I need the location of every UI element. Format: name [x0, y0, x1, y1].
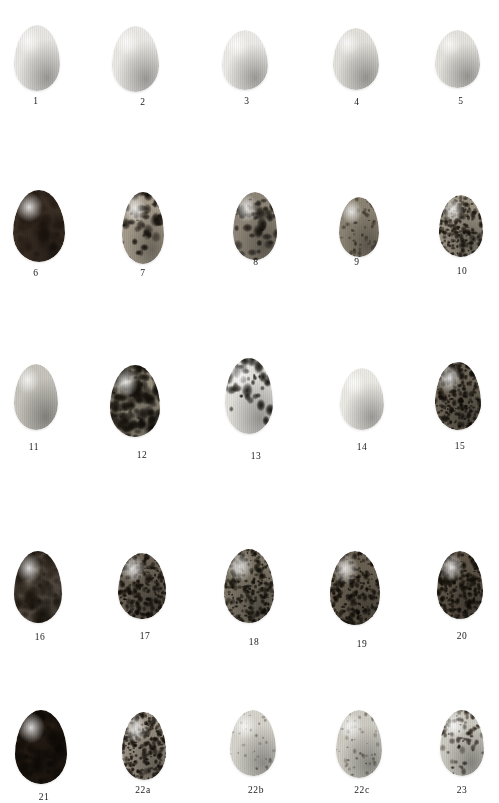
egg-caption: 15 [440, 441, 480, 451]
egg-shading [225, 358, 273, 434]
egg-image-2 [112, 26, 159, 92]
egg-image-22c [336, 710, 382, 778]
egg-caption: 23 [442, 785, 482, 795]
egg-shading [118, 553, 166, 619]
egg-shading [222, 30, 268, 90]
egg-shading [333, 28, 379, 90]
egg-shading [14, 25, 60, 91]
egg-image-13 [225, 358, 273, 434]
egg-image-22b [230, 710, 276, 776]
egg-shading [230, 710, 276, 776]
egg-image-7 [122, 192, 164, 264]
egg-caption: 4 [337, 97, 377, 107]
egg-caption: 12 [122, 450, 162, 460]
egg-image-23 [440, 710, 484, 776]
egg-caption: 22c [342, 785, 382, 795]
egg-caption: 22b [236, 785, 276, 795]
egg-shading [122, 712, 166, 780]
egg-shading [435, 30, 480, 88]
egg-caption: 10 [442, 266, 482, 276]
egg-image-1 [14, 25, 60, 91]
egg-image-21 [15, 710, 67, 784]
egg-caption: 3 [227, 96, 267, 106]
egg-shading [13, 190, 65, 262]
egg-caption: 22a [123, 785, 163, 795]
egg-caption: 9 [337, 257, 377, 267]
egg-caption: 20 [442, 631, 482, 641]
egg-shading [339, 197, 379, 257]
egg-shading [336, 710, 382, 778]
egg-caption: 13 [236, 451, 276, 461]
egg-caption: 11 [14, 442, 54, 452]
egg-image-14 [340, 368, 384, 430]
egg-caption: 17 [125, 631, 165, 641]
egg-image-16 [14, 551, 62, 623]
egg-caption: 19 [342, 639, 382, 649]
egg-image-20 [437, 551, 483, 619]
egg-image-18 [224, 549, 274, 623]
egg-shading [110, 365, 160, 437]
egg-image-19 [330, 551, 380, 625]
egg-caption: 14 [342, 442, 382, 452]
egg-shading [224, 549, 274, 623]
egg-caption: 21 [24, 792, 64, 802]
egg-caption: 8 [236, 257, 276, 267]
egg-shading [435, 362, 481, 430]
egg-shading [14, 551, 62, 623]
egg-caption: 2 [123, 97, 163, 107]
egg-image-5 [435, 30, 480, 88]
egg-image-6 [13, 190, 65, 262]
egg-image-22a [122, 712, 166, 780]
egg-caption: 16 [20, 632, 60, 642]
egg-shading [122, 192, 164, 264]
egg-shading [233, 192, 277, 260]
egg-image-12 [110, 365, 160, 437]
egg-image-8 [233, 192, 277, 260]
egg-image-15 [435, 362, 481, 430]
egg-caption: 18 [234, 637, 274, 647]
egg-shading [112, 26, 159, 92]
egg-shading [14, 364, 58, 430]
egg-shading [340, 368, 384, 430]
egg-image-9 [339, 197, 379, 257]
egg-image-4 [333, 28, 379, 90]
egg-caption: 6 [16, 268, 56, 278]
egg-image-3 [222, 30, 268, 90]
egg-image-11 [14, 364, 58, 430]
egg-plate: 12345678910111213141516171819202122a22b2… [0, 0, 499, 803]
egg-shading [437, 551, 483, 619]
egg-shading [330, 551, 380, 625]
egg-shading [439, 195, 483, 257]
egg-image-17 [118, 553, 166, 619]
egg-shading [15, 710, 67, 784]
egg-shading [440, 710, 484, 776]
egg-caption: 5 [441, 96, 481, 106]
egg-caption: 1 [16, 96, 56, 106]
egg-image-10 [439, 195, 483, 257]
egg-caption: 7 [123, 268, 163, 278]
